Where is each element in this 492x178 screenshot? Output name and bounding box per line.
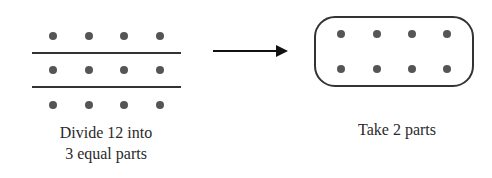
left-row-3	[49, 101, 164, 109]
arrow-right-icon	[213, 45, 288, 57]
right-row-1	[337, 30, 451, 38]
right-dot-group	[337, 30, 451, 73]
dot	[49, 101, 57, 109]
left-caption-line-1: Divide 12 into	[26, 122, 186, 143]
dot	[120, 32, 128, 40]
dot	[337, 30, 345, 38]
dot	[156, 66, 164, 74]
dot	[373, 30, 381, 38]
dot	[120, 66, 128, 74]
dot	[85, 101, 93, 109]
right-row-2	[337, 65, 451, 73]
dot	[49, 66, 57, 74]
selection-enclosure	[315, 17, 473, 86]
dot	[408, 65, 416, 73]
dot	[408, 30, 416, 38]
dot	[373, 65, 381, 73]
dot	[156, 32, 164, 40]
left-dot-group	[49, 32, 164, 109]
dot	[443, 30, 451, 38]
dot	[156, 101, 164, 109]
dot	[49, 32, 57, 40]
dot	[443, 65, 451, 73]
left-caption: Divide 12 into 3 equal parts	[26, 122, 186, 164]
dot	[337, 65, 345, 73]
dot	[85, 66, 93, 74]
left-row-1	[49, 32, 164, 40]
left-row-2	[49, 66, 164, 74]
dot	[85, 32, 93, 40]
left-caption-line-2: 3 equal parts	[26, 143, 186, 164]
dot	[120, 101, 128, 109]
right-caption: Take 2 parts	[317, 119, 477, 140]
